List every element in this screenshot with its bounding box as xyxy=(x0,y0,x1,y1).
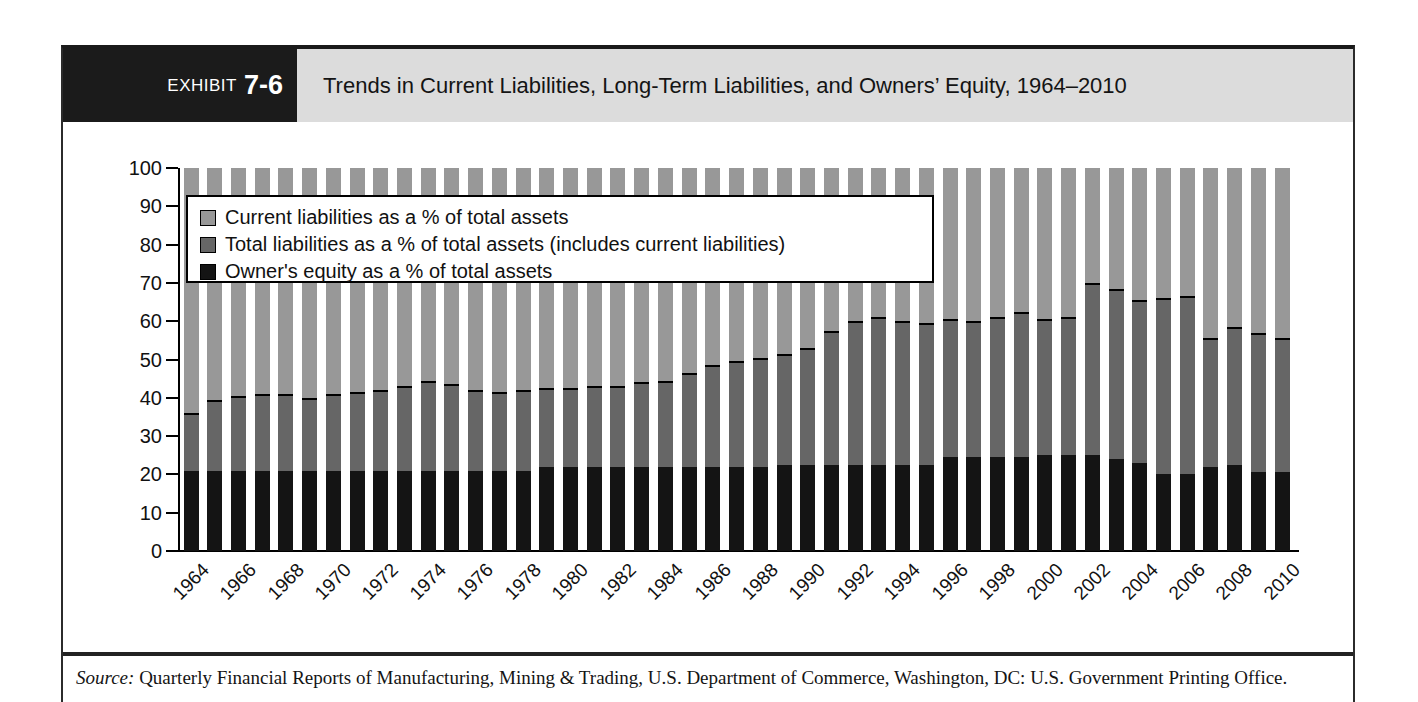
bar-segment-current-liabilities xyxy=(1156,168,1171,298)
bar-stack-2004 xyxy=(1132,168,1147,551)
x-tick-label-text: 1968 xyxy=(263,559,308,604)
x-tick-label-text: 1964 xyxy=(168,559,213,604)
bar-segment-owners-equity xyxy=(848,465,863,551)
x-tick-label-text: 1986 xyxy=(690,559,735,604)
bar-stack-2007 xyxy=(1203,168,1218,551)
bar-segment-total-liabilities xyxy=(278,394,293,471)
y-tick-label: 10 xyxy=(92,501,162,525)
bar-stack-2001 xyxy=(1061,168,1076,551)
bar-segment-owners-equity xyxy=(492,471,507,551)
bar-segment-total-liabilities xyxy=(705,365,720,467)
x-tick-label-text: 2000 xyxy=(1022,559,1067,604)
y-tick xyxy=(166,435,178,437)
bar-segment-owners-equity xyxy=(634,467,649,551)
bar-segment-owners-equity xyxy=(539,467,554,551)
x-tick-label-text: 1974 xyxy=(405,559,450,604)
bar-segment-owners-equity xyxy=(1014,457,1029,551)
bar-segment-total-liabilities xyxy=(302,398,317,471)
page: { "header": { "exhibit_label": "EXHIBIT"… xyxy=(0,0,1418,702)
bar-segment-owners-equity xyxy=(1132,463,1147,551)
bar-segment-owners-equity xyxy=(397,471,412,551)
x-tick-label-text: 1976 xyxy=(453,559,498,604)
bar-segment-total-liabilities xyxy=(326,394,341,471)
bar-segment-owners-equity xyxy=(207,471,222,551)
x-tick-label-text: 1980 xyxy=(548,559,593,604)
bar-segment-owners-equity xyxy=(1109,459,1124,551)
bar-segment-total-liabilities xyxy=(1132,300,1147,463)
y-tick-label: 0 xyxy=(92,539,162,563)
bar-segment-total-liabilities xyxy=(658,381,673,467)
bar-segment-total-liabilities xyxy=(919,323,934,465)
exhibit-tag-label: EXHIBIT xyxy=(167,76,237,96)
bar-segment-current-liabilities xyxy=(1085,168,1100,283)
bar-segment-total-liabilities xyxy=(231,396,246,471)
y-tick-label: 50 xyxy=(92,348,162,372)
bar-segment-owners-equity xyxy=(1037,455,1052,551)
bar-segment-total-liabilities xyxy=(444,384,459,471)
bar-segment-owners-equity xyxy=(468,471,483,551)
y-tick-label: 70 xyxy=(92,271,162,295)
bar-segment-owners-equity xyxy=(1251,472,1266,551)
bar-segment-total-liabilities xyxy=(1275,338,1290,472)
y-tick-label: 20 xyxy=(92,462,162,486)
bar-segment-owners-equity xyxy=(587,467,602,551)
bar-segment-current-liabilities xyxy=(1037,168,1052,319)
bar-segment-current-liabilities xyxy=(1014,168,1029,312)
bar-segment-total-liabilities xyxy=(895,321,910,465)
x-tick-label-text: 1970 xyxy=(310,559,355,604)
legend-label: Current liabilities as a % of total asse… xyxy=(225,206,569,229)
bar-segment-owners-equity xyxy=(682,467,697,551)
y-tick-label: 80 xyxy=(92,233,162,257)
bar-segment-total-liabilities xyxy=(824,331,839,465)
bar-segment-total-liabilities xyxy=(871,317,886,465)
legend-swatch-bottom xyxy=(200,264,216,280)
bar-segment-owners-equity xyxy=(658,467,673,551)
bar-segment-owners-equity xyxy=(990,457,1005,551)
bar-segment-owners-equity xyxy=(610,467,625,551)
legend-swatch-top xyxy=(200,210,216,226)
bar-segment-total-liabilities xyxy=(516,390,531,471)
bar-segment-owners-equity xyxy=(1203,467,1218,551)
y-tick xyxy=(166,397,178,399)
legend-label: Total liabilities as a % of total assets… xyxy=(225,233,785,256)
bar-segment-current-liabilities xyxy=(1275,168,1290,338)
bar-segment-owners-equity xyxy=(966,457,981,551)
bar-segment-total-liabilities xyxy=(1085,283,1100,455)
y-axis-line xyxy=(178,168,180,551)
x-tick-label-text: 2010 xyxy=(1259,559,1304,604)
exhibit-box: EXHIBIT 7-6 Trends in Current Liabilitie… xyxy=(61,45,1355,702)
bar-segment-total-liabilities xyxy=(587,386,602,467)
x-tick-label-text: 2002 xyxy=(1069,559,1114,604)
y-tick xyxy=(166,359,178,361)
legend-swatch-middle xyxy=(200,237,216,253)
bar-segment-total-liabilities xyxy=(1203,338,1218,467)
bar-segment-total-liabilities xyxy=(610,386,625,467)
source-prefix: Source: xyxy=(76,667,134,688)
bar-segment-total-liabilities xyxy=(1037,319,1052,455)
y-tick-label: 100 xyxy=(92,156,162,180)
plot-area: 0102030405060708090100196419661968197019… xyxy=(63,122,1353,652)
y-tick-label: 60 xyxy=(92,309,162,333)
bar-segment-total-liabilities xyxy=(729,361,744,467)
bar-segment-owners-equity xyxy=(516,471,531,551)
x-tick-label-text: 1982 xyxy=(595,559,640,604)
bar-segment-owners-equity xyxy=(421,471,436,551)
bar-segment-owners-equity xyxy=(326,471,341,551)
bar-segment-total-liabilities xyxy=(943,319,958,457)
bar-segment-total-liabilities xyxy=(682,373,697,467)
bar-segment-current-liabilities xyxy=(1109,168,1124,289)
bar-segment-owners-equity xyxy=(255,471,270,551)
x-tick-label-text: 1978 xyxy=(500,559,545,604)
y-tick xyxy=(166,512,178,514)
bar-segment-owners-equity xyxy=(184,471,199,551)
y-tick-label: 40 xyxy=(92,386,162,410)
legend-box: Current liabilities as a % of total asse… xyxy=(186,195,934,283)
bar-segment-current-liabilities xyxy=(1061,168,1076,317)
bar-segment-total-liabilities xyxy=(753,358,768,467)
exhibit-title: Trends in Current Liabilities, Long-Term… xyxy=(323,73,1127,99)
x-tick-label-text: 2004 xyxy=(1117,559,1162,604)
bar-segment-total-liabilities xyxy=(563,388,578,467)
bar-segment-current-liabilities xyxy=(966,168,981,321)
bar-stack-2000 xyxy=(1037,168,1052,551)
bar-segment-owners-equity xyxy=(1180,474,1195,551)
